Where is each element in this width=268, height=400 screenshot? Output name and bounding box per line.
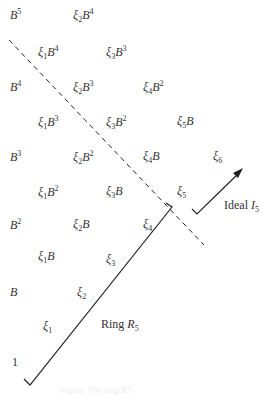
term-subscript: 1 xyxy=(48,326,52,335)
term-xi5B: ξ5B xyxy=(177,115,193,130)
term-exponent: 2 xyxy=(54,184,58,193)
term-xi2: ξ2 xyxy=(77,286,86,301)
term-xi1B2: ξ1B2 xyxy=(38,185,58,201)
dashed-boundary-line xyxy=(9,40,204,245)
term-exponent: 3 xyxy=(17,149,21,158)
term-subscript: 4 xyxy=(148,224,152,233)
term-exponent: 3 xyxy=(54,114,58,123)
term-xi3B3: ξ3B3 xyxy=(106,45,126,61)
ideal-label: Ideal I5 xyxy=(224,199,259,214)
term-xi1: ξ1 xyxy=(43,320,52,335)
ring-label-sub: 5 xyxy=(135,324,139,333)
term-subscript: 6 xyxy=(218,156,222,165)
term-base: B xyxy=(186,114,193,128)
term-base: B xyxy=(10,285,17,299)
ideal-label-text: Ideal xyxy=(224,198,251,212)
term-exponent: 2 xyxy=(159,79,163,88)
term-xi2B3: ξ2B3 xyxy=(73,80,93,96)
term-base: 1 xyxy=(12,355,18,369)
figure-caption: Figure: The ring R5 xyxy=(60,385,132,395)
term-base: B xyxy=(47,249,54,263)
term-base: B xyxy=(115,184,122,198)
term-exponent: 4 xyxy=(89,7,93,16)
ring-label: Ring R5 xyxy=(101,318,139,333)
term-subscript: 5 xyxy=(182,191,186,200)
term-xi5: ξ5 xyxy=(177,185,186,200)
term-one: 1 xyxy=(12,356,18,368)
term-xi2B: ξ2B xyxy=(73,218,89,233)
term-exponent: 2 xyxy=(89,149,93,158)
term-B3: B3 xyxy=(10,150,21,163)
term-exponent: 2 xyxy=(17,217,21,226)
term-base: B xyxy=(82,217,89,231)
term-B: B xyxy=(10,286,17,298)
term-xi4B2: ξ4B2 xyxy=(143,80,163,96)
ring-label-var: R xyxy=(127,317,134,331)
term-exponent: 4 xyxy=(17,79,21,88)
term-B2: B2 xyxy=(10,218,21,231)
term-exponent: 3 xyxy=(122,44,126,53)
term-B5: B5 xyxy=(10,8,21,21)
ring-label-text: Ring xyxy=(101,317,127,331)
term-xi4B: ξ4B xyxy=(143,150,159,165)
term-xi2B2: ξ2B2 xyxy=(73,150,93,166)
term-exponent: 2 xyxy=(122,114,126,123)
ring-ideal-diagram: B5ξ2B4ξ1B4ξ3B3B4ξ2B3ξ4B2ξ1B3ξ3B2ξ5BB3ξ2B… xyxy=(0,0,268,400)
term-xi1B: ξ1B xyxy=(38,250,54,265)
term-xi3B2: ξ3B2 xyxy=(106,115,126,131)
term-B4: B4 xyxy=(10,80,21,93)
term-xi6: ξ6 xyxy=(213,150,222,165)
term-xi1B4: ξ1B4 xyxy=(38,45,58,61)
term-exponent: 3 xyxy=(89,79,93,88)
term-xi3B: ξ3B xyxy=(106,185,122,200)
arrow-head-icon xyxy=(233,168,243,178)
ideal-label-sub: 5 xyxy=(255,205,259,214)
term-exponent: 5 xyxy=(17,7,21,16)
term-xi1B3: ξ1B3 xyxy=(38,115,58,131)
term-xi2B4: ξ2B4 xyxy=(73,8,93,24)
term-xi3: ξ3 xyxy=(106,253,115,268)
term-exponent: 4 xyxy=(54,44,58,53)
term-base: B xyxy=(152,149,159,163)
term-xi4: ξ4 xyxy=(143,218,152,233)
term-subscript: 2 xyxy=(82,292,86,301)
term-subscript: 3 xyxy=(111,259,115,268)
